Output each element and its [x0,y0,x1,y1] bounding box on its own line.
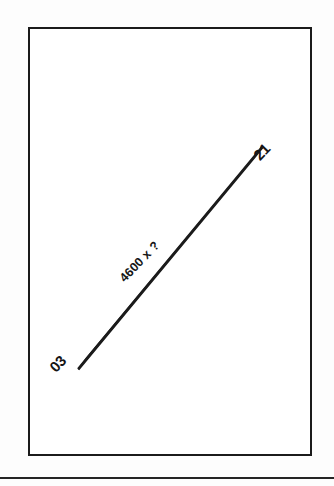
page-divider-rule [0,477,334,479]
drawing-border-frame [28,27,312,456]
drawing-page: 03 21 4600 x ? [0,0,334,486]
